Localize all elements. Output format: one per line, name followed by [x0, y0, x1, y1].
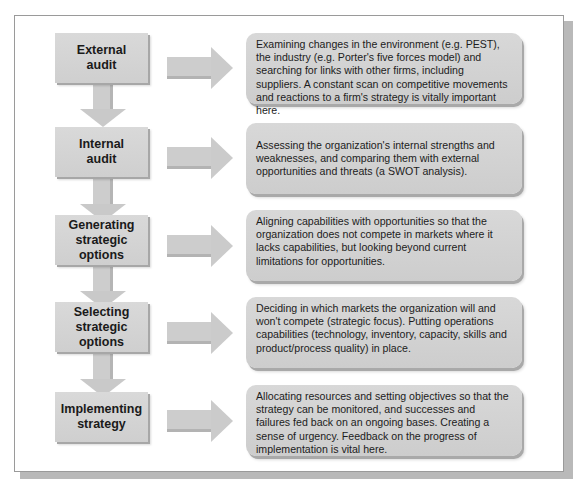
stage-label: Generating strategic options [69, 218, 135, 263]
stage-label: Selecting strategic options [74, 305, 130, 350]
right-arrow-icon [167, 400, 233, 442]
right-arrow-icon [167, 312, 233, 354]
description-text: Examining changes in the environment (e.… [256, 38, 512, 117]
description-text: Allocating resources and setting objecti… [256, 390, 512, 456]
description-text: Aligning capabilities with opportunities… [256, 215, 512, 268]
description-text: Deciding in which markets the organizati… [256, 302, 512, 355]
stage-internal-audit: Internal audit [55, 127, 148, 177]
down-arrow-icon [80, 83, 126, 127]
stage-implementing-strategy: Implementing strategy [55, 392, 148, 442]
down-arrow-icon [80, 353, 126, 397]
stage-selecting-strategic-options: Selecting strategic options [55, 302, 148, 352]
description-internal-audit: Assessing the organization's internal st… [246, 123, 522, 194]
stage-label: Implementing strategy [61, 402, 142, 432]
description-generating-strategic-options: Aligning capabilities with opportunities… [246, 210, 522, 281]
right-arrow-icon [167, 137, 233, 179]
stage-external-audit: External audit [55, 33, 148, 83]
stage-label: External audit [77, 43, 126, 73]
description-external-audit: Examining changes in the environment (e.… [246, 33, 522, 104]
stage-generating-strategic-options: Generating strategic options [55, 215, 148, 265]
right-arrow-icon [167, 225, 233, 267]
description-selecting-strategic-options: Deciding in which markets the organizati… [246, 297, 522, 368]
stage-label: Internal audit [79, 137, 124, 167]
right-arrow-icon [167, 47, 233, 89]
description-implementing-strategy: Allocating resources and setting objecti… [246, 385, 522, 456]
description-text: Assessing the organization's internal st… [256, 139, 512, 179]
